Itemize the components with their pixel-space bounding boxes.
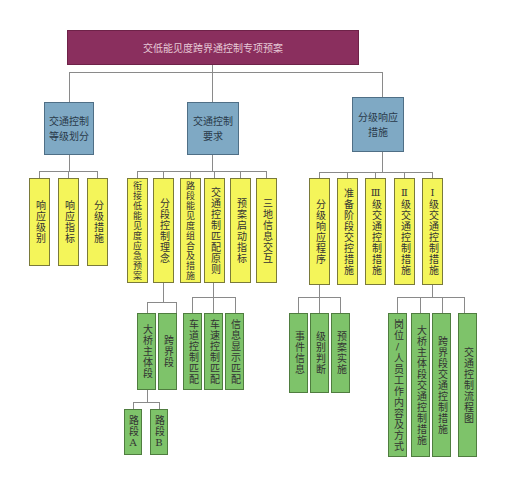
node-control-flowchart: 交通控制流程图 [458,313,477,457]
node-speed-control: 车速控制匹配 [204,313,223,390]
node-start-indicator: 预案启动指标 [230,178,251,283]
node-grading-label: 交通控制等级划分 [47,114,91,144]
label: 路段B [154,415,165,449]
label: 响应级别 [34,200,45,244]
node-info-exchange: 三地信息交互 [256,178,277,283]
node-lane-control: 车道控制匹配 [183,313,202,390]
node-cross-border: 跨界段 [158,313,177,390]
label: 衔接低能见度应急预案 [133,181,143,281]
node-response-indicator: 响应指标 [58,178,79,266]
node-cross-border-control: 跨界段交通控制措施 [432,313,451,457]
label: 交通控制流程图 [462,347,473,424]
label: 大桥主体段 [141,324,152,379]
label: 级别判断 [314,331,325,375]
label: 路段A [128,415,139,449]
node-grading: 交通控制等级划分 [44,102,94,155]
label: 分段控制理念 [158,198,169,264]
node-segment-a: 路段A [124,409,142,455]
node-responses-label: 分级响应措施 [355,110,401,140]
label: 分级响应程序 [314,199,325,265]
node-level2-measures: Ⅱ级交通控制措施 [394,178,415,285]
node-matching-principle: 交通控制匹配原则 [204,178,225,283]
node-requirements: 交通控制要求 [187,102,239,155]
label: 准备阶段交控措施 [342,188,353,276]
node-level1-measures: Ⅰ级交通控制措施 [422,178,443,285]
node-info-display: 信息显示匹配 [225,313,244,390]
node-responses: 分级响应措施 [352,97,404,152]
label: 事件信息 [293,331,304,375]
label: 预案实施 [335,331,346,375]
node-response-level: 响应级别 [29,178,50,266]
label: 三地信息交互 [261,198,272,264]
label: 信息显示匹配 [229,319,240,385]
root-title: 交低能见度跨界通控制专项预案 [143,40,283,55]
node-graded-measures: 分级措施 [87,178,108,266]
label: 大桥主体段交通控制措施 [415,325,426,446]
node-segment-concept: 分段控制理念 [153,178,174,283]
label: Ⅲ级交通控制措施 [370,187,381,276]
root-node: 交低能见度跨界通控制专项预案 [67,30,359,65]
label: 跨界段交通控制措施 [436,336,447,435]
node-event-info: 事件信息 [289,313,308,393]
node-requirements-label: 交通控制要求 [190,114,236,144]
label: 车速控制匹配 [208,319,219,385]
label: 交通控制匹配原则 [209,187,220,275]
label: Ⅰ级交通控制措施 [427,187,438,276]
node-level-judgement: 级别判断 [310,313,329,393]
label: 车道控制匹配 [187,319,198,385]
node-segment-b: 路段B [150,409,168,455]
node-bridge-control: 大桥主体段交通控制措施 [411,313,430,457]
node-staff-duties: 岗位/人员工作内容及方式 [388,313,407,457]
label: 岗位/人员工作内容及方式 [392,319,403,452]
node-link-plan: 衔接低能见度应急预案 [127,178,148,283]
node-plan-implementation: 预案实施 [331,313,350,393]
node-prep-stage: 准备阶段交控措施 [337,178,358,285]
label: 预案启动指标 [235,198,246,264]
label: Ⅱ级交通控制措施 [399,187,410,276]
node-visibility-combo: 路段能见度组合及措施 [180,178,201,283]
node-response-procedure: 分级响应程序 [309,178,330,285]
node-bridge-main: 大桥主体段 [137,313,156,390]
label: 跨界段 [162,335,173,368]
node-level3-measures: Ⅲ级交通控制措施 [365,178,386,285]
label: 响应指标 [63,200,74,244]
label: 分级措施 [92,200,103,244]
label: 路段能见度组合及措施 [186,181,196,281]
